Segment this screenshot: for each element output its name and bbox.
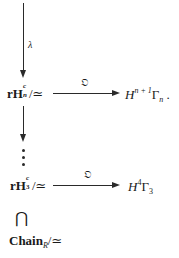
ellipsis-dot	[22, 149, 25, 152]
lambda-label: λ	[28, 40, 32, 50]
node-sub: 3	[149, 187, 153, 196]
middle-arrow-head-icon	[20, 134, 26, 142]
lambda-arrow-shaft	[23, 3, 24, 71]
ellipsis-dot	[22, 156, 25, 159]
node-H-n1-Gamma-n: Hn + 1Γn .	[125, 87, 170, 104]
bottom-arrow-shaft	[53, 185, 113, 186]
node-suffix: /≃	[29, 86, 44, 101]
top-arrow-head-icon	[112, 90, 120, 96]
bottom-arrow-label: 𝔒	[84, 170, 91, 180]
node-sup: c	[23, 83, 26, 90]
node-sub: n	[23, 92, 27, 99]
ellipsis-dot	[22, 163, 25, 166]
middle-arrow-shaft	[23, 106, 24, 136]
node-rH-c-n: rHcn/≃	[7, 87, 43, 100]
node-suffix: /≃	[32, 178, 47, 193]
top-arrow-label: 𝔒	[81, 78, 88, 88]
node-sub: 3	[26, 184, 30, 191]
node-suffix: /≃	[48, 233, 63, 248]
top-arrow-shaft	[53, 93, 113, 94]
node-rH-c-3: rHc3/≃	[10, 179, 46, 192]
node-sup: c	[26, 175, 29, 182]
lambda-arrow-head-icon	[20, 70, 26, 78]
inclusion-symbol: ⋂	[15, 210, 28, 226]
bottom-arrow-head-icon	[112, 182, 120, 188]
node-main: rH	[10, 178, 26, 193]
node-suffix: .	[163, 87, 170, 102]
node-scripts: c3	[26, 180, 32, 190]
node-main: Chain	[9, 233, 43, 248]
node-scripts: cn	[23, 88, 29, 98]
node-chain-R: ChainR/≃	[9, 234, 62, 250]
node-greek: Γ	[141, 179, 149, 194]
node-main: H	[128, 179, 137, 194]
node-H4-Gamma-3: H4Γ3	[128, 179, 153, 196]
node-main: rH	[7, 86, 23, 101]
node-sup: n + 1	[134, 86, 151, 95]
node-main: H	[125, 87, 134, 102]
